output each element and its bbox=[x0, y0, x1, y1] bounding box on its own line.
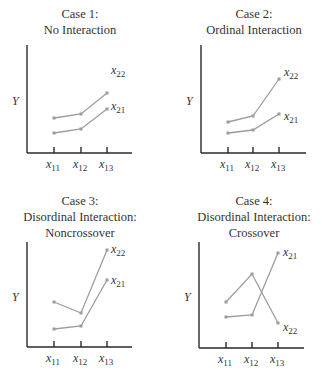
x-tick-label: x11 bbox=[45, 351, 60, 367]
x-tick-label: x12 bbox=[243, 352, 258, 368]
data-point-marker bbox=[106, 92, 109, 95]
x-tick-label: x13 bbox=[270, 157, 286, 173]
x-tick-label: x11 bbox=[45, 157, 60, 173]
series-label-x21: x21 bbox=[283, 109, 298, 125]
data-point-marker bbox=[277, 252, 280, 255]
data-point-marker bbox=[106, 279, 109, 282]
series-label-x22: x22 bbox=[110, 63, 125, 79]
data-point-marker bbox=[106, 249, 109, 252]
data-point-marker bbox=[53, 117, 56, 120]
data-point-marker bbox=[277, 322, 280, 325]
x-tick-label: x13 bbox=[98, 157, 114, 173]
x-tick-label: x11 bbox=[219, 157, 234, 173]
series-label-x21: x21 bbox=[110, 99, 125, 115]
data-point-marker bbox=[278, 78, 281, 81]
series-label-x22: x22 bbox=[283, 65, 298, 81]
x-tick-label: x12 bbox=[72, 351, 87, 367]
data-point-marker bbox=[252, 129, 255, 132]
series-label-x22: x22 bbox=[110, 242, 125, 258]
x-tick-label: x13 bbox=[98, 351, 114, 367]
series-label-x22: x22 bbox=[282, 320, 297, 336]
series-label-x21: x21 bbox=[110, 273, 125, 289]
data-point-marker bbox=[278, 113, 281, 116]
series-label-x21: x21 bbox=[282, 245, 297, 261]
data-point-marker bbox=[227, 132, 230, 135]
data-point-marker bbox=[53, 132, 56, 135]
x-tick-label: x12 bbox=[72, 157, 87, 173]
plot-canvas: Yx11x12x13x22x21Yx11x12x13x22x21Yx11x12x… bbox=[0, 0, 322, 374]
y-axis-label: Y bbox=[184, 290, 192, 304]
data-point-marker bbox=[227, 121, 230, 124]
series-line-x21 bbox=[54, 280, 107, 329]
data-point-marker bbox=[53, 301, 56, 304]
data-point-marker bbox=[80, 312, 83, 315]
series-line-x22 bbox=[54, 250, 107, 313]
x-tick-label: x13 bbox=[269, 352, 285, 368]
data-point-marker bbox=[53, 328, 56, 331]
data-point-marker bbox=[225, 301, 228, 304]
data-point-marker bbox=[251, 273, 254, 276]
data-point-marker bbox=[80, 128, 83, 131]
data-point-marker bbox=[252, 115, 255, 118]
y-axis-label: Y bbox=[12, 94, 20, 108]
data-point-marker bbox=[251, 314, 254, 317]
x-tick-label: x11 bbox=[217, 352, 232, 368]
data-point-marker bbox=[80, 113, 83, 116]
x-tick-label: x12 bbox=[244, 157, 259, 173]
data-point-marker bbox=[106, 108, 109, 111]
y-axis-label: Y bbox=[186, 94, 194, 108]
data-point-marker bbox=[225, 316, 228, 319]
data-point-marker bbox=[80, 325, 83, 328]
y-axis-label: Y bbox=[12, 290, 20, 304]
